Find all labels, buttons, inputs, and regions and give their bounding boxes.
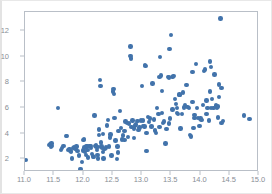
y-tick-label: 8 — [5, 77, 9, 86]
x-tick-label: 11.0 — [17, 175, 31, 184]
data-point — [112, 92, 116, 96]
data-point — [122, 129, 126, 133]
data-point — [219, 86, 223, 90]
plot-area — [24, 11, 258, 171]
data-point — [77, 153, 81, 157]
data-point — [167, 121, 171, 125]
data-point — [24, 158, 28, 162]
data-point — [97, 127, 101, 131]
data-point — [217, 95, 221, 99]
x-tick-label: 11.5 — [46, 175, 60, 184]
data-point — [218, 16, 222, 20]
x-tick-label: 13.5 — [163, 175, 178, 184]
data-point — [96, 156, 100, 160]
data-point — [132, 136, 136, 140]
data-point — [152, 117, 156, 121]
data-point — [80, 160, 84, 164]
data-point — [144, 131, 148, 135]
data-point — [158, 55, 162, 59]
y-tick-mark — [20, 132, 24, 133]
data-point — [118, 109, 122, 113]
data-point — [195, 106, 199, 110]
data-point — [113, 138, 117, 142]
x-tick-label: 14.5 — [221, 175, 236, 184]
data-point — [219, 121, 223, 125]
data-point — [170, 107, 174, 111]
data-point — [69, 150, 73, 154]
x-tick-label: 15.0 — [251, 175, 266, 184]
data-point — [169, 33, 173, 37]
data-point — [194, 62, 198, 66]
x-tick-label: 14.0 — [192, 175, 207, 184]
y-tick-label: 4 — [5, 128, 9, 137]
data-point — [154, 131, 158, 135]
data-point — [140, 84, 144, 88]
data-point — [106, 118, 110, 122]
data-point — [210, 97, 214, 101]
x-tick-label: 12.5 — [104, 175, 119, 184]
data-point — [184, 83, 188, 87]
data-point — [144, 149, 148, 153]
data-point — [178, 126, 182, 130]
data-point — [242, 113, 246, 117]
data-point — [209, 65, 213, 69]
data-point — [177, 92, 181, 96]
data-point — [157, 125, 161, 129]
data-point — [92, 113, 96, 117]
data-point — [208, 89, 212, 93]
data-point — [191, 126, 195, 130]
data-point — [187, 106, 191, 110]
data-point — [109, 153, 113, 157]
data-point — [190, 100, 194, 104]
data-point — [65, 134, 69, 138]
data-point — [116, 150, 120, 154]
data-point — [70, 156, 74, 160]
data-point — [180, 112, 184, 116]
data-point — [159, 73, 163, 77]
data-point — [189, 134, 193, 138]
data-point — [204, 112, 208, 116]
x-tick-label: 12.0 — [75, 175, 90, 184]
data-point — [129, 56, 133, 60]
data-point — [167, 47, 171, 51]
data-point — [128, 44, 132, 48]
data-point — [143, 64, 147, 68]
data-point — [141, 118, 145, 122]
data-point — [107, 144, 111, 148]
data-point — [204, 98, 208, 102]
x-tick-label: 13.0 — [134, 175, 149, 184]
data-point — [60, 146, 64, 150]
y-tick-mark — [20, 55, 24, 56]
data-point — [150, 81, 154, 85]
data-point — [160, 111, 164, 115]
data-point — [216, 104, 220, 108]
data-point — [212, 72, 216, 76]
data-point — [115, 157, 119, 161]
data-point — [105, 123, 109, 127]
data-point — [208, 59, 212, 63]
data-point — [86, 155, 90, 159]
y-tick-mark — [20, 107, 24, 108]
data-point — [203, 67, 207, 71]
data-point — [101, 132, 105, 136]
data-point — [74, 144, 78, 148]
data-point — [175, 106, 179, 110]
data-point — [197, 124, 201, 128]
data-point — [115, 144, 119, 148]
data-point — [209, 106, 213, 110]
data-point — [247, 117, 251, 121]
y-tick-label: 12 — [1, 26, 9, 35]
data-point — [190, 70, 194, 74]
data-point — [173, 97, 177, 101]
data-point — [207, 118, 211, 122]
y-tick-mark — [20, 158, 24, 159]
data-point — [168, 116, 172, 120]
y-tick-label: 10 — [1, 51, 9, 60]
data-point — [163, 141, 167, 145]
y-tick-label: 6 — [5, 103, 9, 112]
data-point — [162, 119, 166, 123]
data-point — [160, 89, 164, 93]
y-tick-label: 2 — [5, 154, 9, 163]
y-tick-mark — [20, 30, 24, 31]
data-point — [164, 127, 168, 131]
